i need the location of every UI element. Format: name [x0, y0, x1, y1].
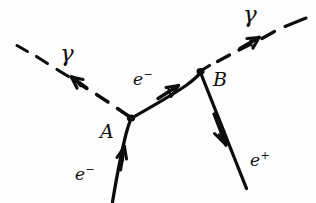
vertex-b-label: B	[213, 70, 227, 89]
positron-outgoing-charge: +	[261, 149, 270, 162]
positron-outgoing-label: e+	[250, 152, 270, 169]
electron-incoming-label: e−	[75, 166, 95, 183]
electron-incoming-charge: −	[86, 163, 95, 176]
electron-incoming-symbol: e	[75, 164, 85, 184]
positron-outgoing-symbol: e	[250, 150, 260, 170]
vertex-b-dot	[197, 68, 205, 75]
photon-right-label: γ	[243, 3, 257, 26]
feynman-diagram: γ γ A B e− e− e+	[0, 0, 316, 203]
diagram-canvas	[0, 0, 316, 203]
vertex-a-dot	[127, 114, 135, 121]
photon-left-label: γ	[60, 42, 74, 65]
vertex-a-label: A	[100, 122, 114, 141]
electron-internal-label: e−	[133, 71, 153, 88]
electron-internal-charge: −	[144, 68, 153, 81]
electron-internal-symbol: e	[133, 69, 143, 89]
photon-left-arrowhead	[72, 77, 87, 88]
photon-right-arrowhead	[240, 38, 259, 49]
